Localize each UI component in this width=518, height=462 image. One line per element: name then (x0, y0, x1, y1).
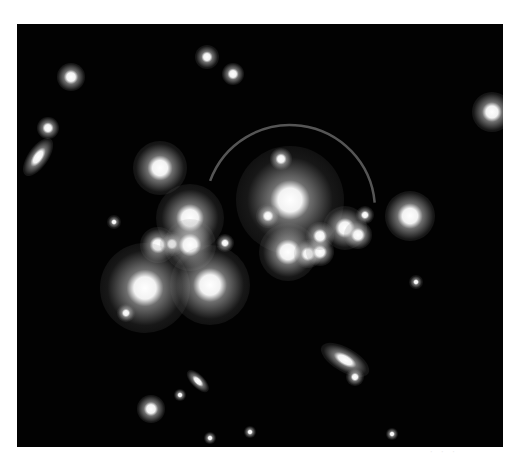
star-bottom-left (137, 395, 165, 423)
galaxy-arc-end-b (344, 221, 372, 249)
galaxy-lower-center-large (170, 245, 250, 325)
star-small-left-b (117, 304, 135, 322)
star-bottom-d (386, 428, 398, 440)
star-left-edge (37, 117, 59, 139)
star-small-right (409, 275, 423, 289)
corner-marks: · · · (430, 448, 458, 457)
star-top-center-b (222, 63, 244, 85)
star-bottom-b (244, 426, 256, 438)
galaxy-small-above (270, 148, 292, 170)
galaxy-right-isolated (385, 191, 435, 241)
astronomical-photo (17, 24, 503, 447)
galaxy-arc-end-c (356, 206, 374, 224)
star-top-left (57, 63, 85, 91)
galaxy-small-center (256, 204, 280, 228)
star-bottom-c (204, 432, 216, 444)
star-small-mid (216, 234, 234, 252)
galaxy-bottom-small (346, 368, 364, 386)
star-small-left (107, 215, 121, 229)
star-top-center (195, 45, 219, 69)
star-bottom-a (174, 389, 186, 401)
